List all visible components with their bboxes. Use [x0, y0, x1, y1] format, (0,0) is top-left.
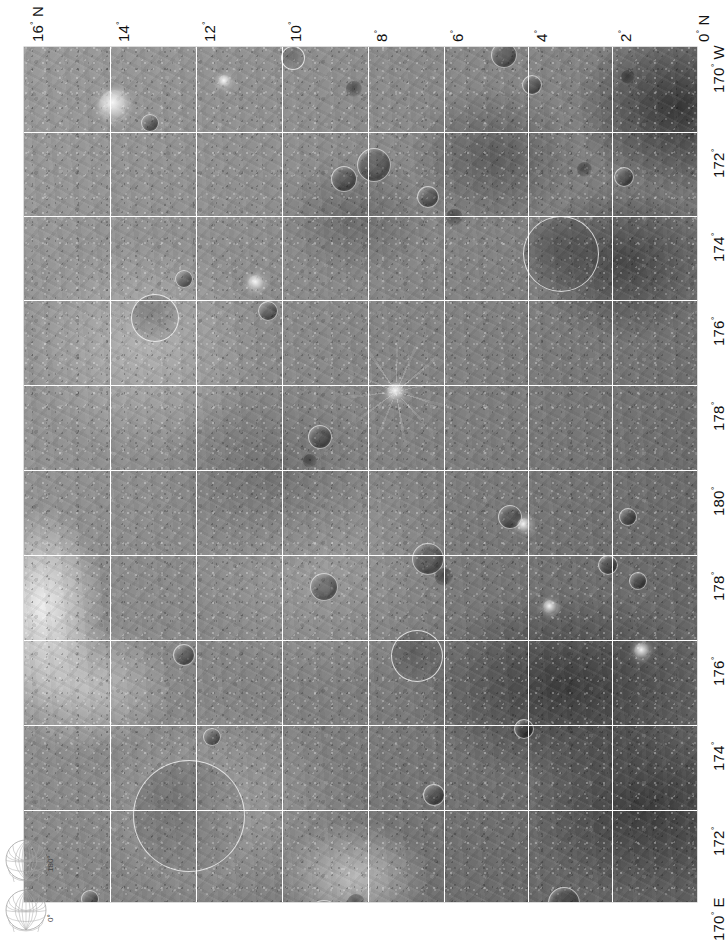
longitude-tick-label-176-3: 176°: [710, 317, 727, 346]
globe-index-180-label: 180°: [46, 855, 55, 872]
graticule-line-horizontal-5: [24, 555, 697, 556]
degree-symbol: °: [710, 149, 720, 153]
hemisphere-suffix: W: [710, 45, 727, 64]
longitude-tick-label-178-6: 178°: [710, 572, 727, 601]
tick-value: 170: [710, 915, 727, 941]
longitude-tick-label-170-W-0: 170° W: [710, 45, 727, 93]
latitude-tick-label-12-2: 12°: [201, 21, 218, 42]
tick-value: 170: [710, 67, 727, 93]
longitude-tick-label-172-9: 172°: [710, 827, 727, 856]
map-plate[interactable]: [24, 47, 697, 902]
degree-symbol: °: [710, 402, 720, 406]
latitude-tick-label-6-5: 6°: [449, 30, 466, 42]
graticule-line-vertical-5: [528, 47, 529, 902]
latitude-tick-label-2-7: 2°: [617, 30, 634, 42]
tick-value: 0: [695, 33, 712, 42]
tick-value: 2: [617, 33, 634, 42]
degree-symbol: °: [710, 657, 720, 661]
tick-value: 176: [710, 660, 727, 686]
latitude-tick-label-14-1: 14°: [115, 21, 132, 42]
latitude-tick-label-8-4: 8°: [373, 30, 390, 42]
longitude-tick-label-176-7: 176°: [710, 657, 727, 686]
globe-index-180: 180°: [4, 838, 48, 886]
hemisphere-suffix: N: [29, 6, 46, 21]
latitude-tick-label-16-N-0: 16° N: [29, 6, 46, 42]
graticule-line-horizontal-1: [24, 216, 697, 217]
degree-symbol: °: [710, 912, 720, 916]
degree-symbol: °: [710, 742, 720, 746]
photomosaic-surface: [24, 47, 697, 902]
tick-value: 16: [29, 25, 46, 42]
tick-value: 174: [710, 236, 727, 262]
longitude-tick-label-178-4: 178°: [710, 402, 727, 431]
globe-graticule-icon: [4, 888, 48, 932]
tick-value: 172: [710, 152, 727, 178]
hemisphere-suffix: N: [695, 14, 712, 29]
degree-symbol: °: [710, 233, 720, 237]
degree-symbol: °: [617, 30, 627, 34]
globe-graticule-icon: [4, 838, 48, 882]
tick-value: 172: [710, 830, 727, 856]
globe-index-0: 0°: [4, 888, 48, 936]
longitude-tick-label-172-1: 172°: [710, 149, 727, 178]
longitude-tick-label-174-2: 174°: [710, 233, 727, 262]
hemisphere-suffix: E: [710, 897, 727, 912]
tick-value: 4: [533, 33, 550, 42]
tick-value: 14: [115, 25, 132, 42]
degree-symbol: °: [710, 572, 720, 576]
degree-symbol: °: [710, 827, 720, 831]
tick-value: 178: [710, 575, 727, 601]
latitude-tick-label-4-6: 4°: [533, 30, 550, 42]
tick-value: 178: [710, 405, 727, 431]
latitude-tick-label-10-3: 10°: [287, 21, 304, 42]
degree-symbol: °: [533, 30, 543, 34]
graticule-line-vertical-3: [368, 47, 369, 902]
degree-symbol: °: [287, 21, 297, 25]
tick-value: 12: [201, 25, 218, 42]
graticule-grid: [24, 47, 697, 902]
tick-value: 6: [449, 33, 466, 42]
graticule-line-horizontal-4: [24, 470, 697, 471]
degree-symbol: °: [710, 487, 720, 491]
tick-value: 176: [710, 320, 727, 346]
graticule-line-vertical-1: [196, 47, 197, 902]
latitude-tick-label-0-N-8: 0° N: [695, 14, 712, 42]
graticule-line-horizontal-8: [24, 810, 697, 811]
graticule-line-horizontal-6: [24, 640, 697, 641]
longitude-tick-label-180-5: 180°: [710, 487, 727, 516]
longitude-tick-label-174-8: 174°: [710, 742, 727, 771]
degree-symbol: °: [201, 21, 211, 25]
degree-symbol: °: [695, 30, 705, 34]
graticule-line-vertical-0: [110, 47, 111, 902]
graticule-line-horizontal-2: [24, 300, 697, 301]
degree-symbol: °: [449, 30, 459, 34]
tick-value: 8: [373, 33, 390, 42]
graticule-line-vertical-4: [444, 47, 445, 902]
degree-symbol: °: [29, 21, 39, 25]
degree-symbol: °: [710, 317, 720, 321]
tick-value: 10: [287, 25, 304, 42]
globe-index-0-label: 0°: [46, 914, 55, 922]
degree-symbol: °: [373, 30, 383, 34]
graticule-line-horizontal-7: [24, 725, 697, 726]
graticule-line-horizontal-3: [24, 385, 697, 386]
tick-value: 180: [710, 490, 727, 516]
tick-value: 174: [710, 745, 727, 771]
graticule-line-horizontal-0: [24, 132, 697, 133]
longitude-tick-label-170-E-10: 170° E: [710, 897, 727, 941]
degree-symbol: °: [115, 21, 125, 25]
degree-symbol: °: [710, 64, 720, 68]
graticule-line-vertical-6: [612, 47, 613, 902]
graticule-line-vertical-2: [282, 47, 283, 902]
